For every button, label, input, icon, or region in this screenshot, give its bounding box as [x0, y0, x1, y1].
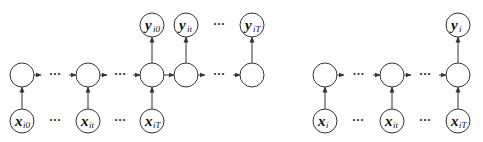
node-subscript: i0: [153, 24, 161, 34]
node-subscript: it: [89, 120, 95, 130]
hidden-state-node: [380, 63, 404, 87]
node-label: x: [14, 113, 23, 129]
hidden-state-node: [76, 63, 100, 87]
node-subscript: i0: [23, 120, 31, 130]
ellipsis: ···: [213, 67, 225, 81]
hidden-state-node: [446, 63, 470, 87]
output-node-y-it: yit: [174, 13, 198, 37]
input-node-x-iT: xiT: [446, 109, 470, 133]
many-to-one-diagram: ······xixitxiTyi······: [313, 13, 470, 133]
hidden-state-node: [313, 63, 337, 87]
many-to-many-diagram: ·········xi0xitxiTyi0yityiT·········: [10, 13, 264, 133]
input-node-x-i: xi: [313, 109, 337, 133]
output-node-y-i: yi: [446, 13, 470, 37]
node-circle: [140, 13, 164, 37]
hidden-state-node: [140, 63, 164, 87]
node-label: y: [177, 17, 186, 33]
hidden-state-node: [10, 63, 34, 87]
node-label: x: [80, 113, 89, 129]
ellipsis: ···: [419, 67, 431, 81]
node-subscript: iT: [459, 120, 468, 130]
ellipsis: ···: [49, 67, 61, 81]
ellipsis: ···: [419, 113, 431, 127]
node-circle: [174, 13, 198, 37]
node-subscript: iT: [253, 24, 262, 34]
input-node-x-i0: xi0: [10, 109, 34, 133]
ellipsis: ···: [352, 67, 364, 81]
node-label: y: [243, 17, 252, 33]
ellipsis: ···: [114, 67, 126, 81]
node-subscript: iT: [153, 120, 162, 130]
ellipsis: ···: [213, 17, 225, 31]
output-node-y-iT: yiT: [240, 13, 264, 37]
ellipsis: ···: [49, 113, 61, 127]
node-label: x: [317, 113, 326, 129]
node-label: x: [384, 113, 393, 129]
hidden-state-node: [240, 63, 264, 87]
node-subscript: it: [393, 120, 399, 130]
input-node-x-iT: xiT: [140, 109, 164, 133]
input-node-x-it: xit: [76, 109, 100, 133]
node-label: y: [143, 17, 152, 33]
node-circle: [446, 13, 470, 37]
node-label: y: [449, 17, 458, 33]
ellipsis: ···: [352, 113, 364, 127]
node-label: x: [144, 113, 153, 129]
node-subscript: it: [187, 24, 193, 34]
rnn-diagram: ·········xi0xitxiTyi0yityiT········· ···…: [0, 0, 483, 142]
node-label: x: [450, 113, 459, 129]
ellipsis: ···: [114, 113, 126, 127]
output-node-y-i0: yi0: [140, 13, 164, 37]
input-node-x-it: xit: [380, 109, 404, 133]
hidden-state-node: [174, 63, 198, 87]
